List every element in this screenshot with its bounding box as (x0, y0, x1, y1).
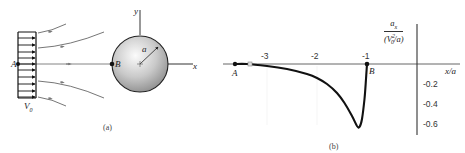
y-num-subscript: x (395, 24, 398, 30)
label-velocity: V0 (24, 102, 33, 113)
streamlines (38, 24, 104, 106)
point-b-marker (110, 62, 115, 67)
y-den-tail: /a) (394, 34, 403, 44)
y-label-numerator: ax (384, 19, 403, 32)
label-point-a: A (11, 60, 17, 69)
y-tick-minus-0-2: -0.2 (423, 80, 438, 89)
acceleration-curve (235, 64, 368, 128)
x-tick-minus-1: -1 (362, 52, 370, 61)
y-tick-minus-0-4: -0.4 (423, 100, 438, 109)
y-label-denominator: (V20/a) (384, 32, 403, 46)
caption-b: (b) (329, 143, 338, 151)
label-y-axis: y (134, 7, 138, 16)
label-radius: a (142, 45, 147, 54)
x-tick-minus-2: -2 (311, 52, 319, 61)
x-tick-minus-3: -3 (261, 52, 269, 61)
caption-a: (a) (103, 124, 112, 132)
velocity-subscript: 0 (30, 107, 33, 113)
panel-a-diagram (16, 10, 193, 106)
label-point-b: B (115, 60, 121, 69)
label-x-axis: x (193, 62, 197, 71)
chart-label-b: B (369, 67, 375, 76)
chart-label-a: A (232, 69, 238, 78)
chart-point-a (233, 62, 237, 66)
curve-start-marker (248, 62, 252, 66)
y-tick-minus-0-6: -0.6 (423, 120, 438, 129)
velocity-profile (18, 32, 36, 98)
chart-x-axis-label: x/a (445, 67, 456, 76)
chart-y-axis-label: ax (V20/a) (384, 19, 403, 45)
